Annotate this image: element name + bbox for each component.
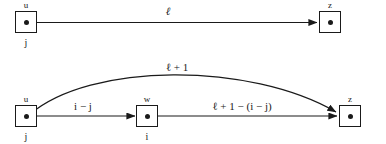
node-top-u-index: j [15,38,37,48]
node-bottom-w-index: i [136,132,158,142]
node-bottom-w-dot [145,114,150,119]
node-bottom-u-index: j [15,132,37,142]
figure-container: u j z ℓ u j w i z i − j ℓ + 1 − (i − j) … [0,0,386,144]
node-bottom-w-name: w [136,95,158,104]
node-top-z-dot [328,20,333,25]
node-top-u-name: u [15,1,37,10]
node-bottom-u-name: u [15,95,37,104]
node-top-u-dot [24,20,29,25]
node-bottom-u [15,105,37,127]
node-bottom-u-dot [24,114,29,119]
node-top-z [319,11,341,33]
edge-weight-bottom-w-to-z: ℓ + 1 − (i − j) [196,101,288,112]
edge-weight-top-u-to-z: ℓ [148,6,188,17]
node-top-u [15,11,37,33]
node-bottom-z-dot [348,114,353,119]
edge-weight-bottom-u-to-z-arc: ℓ + 1 [155,62,199,73]
node-bottom-w [136,105,158,127]
node-bottom-z [339,105,361,127]
node-bottom-z-name: z [339,95,361,104]
edge-weight-bottom-u-to-w: i − j [58,101,108,112]
node-top-z-name: z [319,1,341,10]
